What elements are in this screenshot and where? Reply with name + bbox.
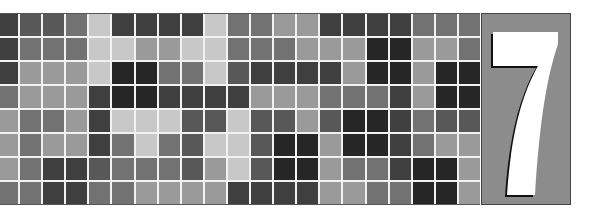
mosaic-cell [43, 134, 64, 156]
mosaic-cell [320, 14, 341, 36]
mosaic-cell [274, 158, 295, 180]
mosaic-cell [136, 38, 157, 60]
mosaic-cell [459, 110, 480, 132]
mosaic-cell [459, 14, 480, 36]
mosaic-cell [0, 182, 18, 204]
mosaic-cell [297, 62, 318, 84]
mosaic-cell [367, 62, 388, 84]
mosaic-cell [66, 182, 87, 204]
mosaic-cell [205, 86, 226, 108]
mosaic-cell [320, 158, 341, 180]
mosaic-cell [297, 134, 318, 156]
mosaic-cell [390, 182, 411, 204]
mosaic-cell [297, 38, 318, 60]
mosaic-cell [343, 110, 364, 132]
mosaic-cell [251, 86, 272, 108]
mosaic-cell [367, 182, 388, 204]
mosaic-cell [136, 182, 157, 204]
mosaic-cell [159, 134, 180, 156]
mosaic-cell [367, 38, 388, 60]
mosaic-cell [112, 110, 133, 132]
mosaic-cell [0, 38, 18, 60]
chapter-numeral-seven [482, 14, 572, 206]
mosaic-cell [112, 14, 133, 36]
mosaic-cell [159, 86, 180, 108]
mosaic-cell [367, 134, 388, 156]
mosaic-cell [274, 14, 295, 36]
mosaic-cell [20, 110, 41, 132]
mosaic-cell [89, 158, 110, 180]
mosaic-cell [0, 86, 18, 108]
mosaic-cell [367, 14, 388, 36]
mosaic-cell [274, 134, 295, 156]
mosaic-cell [182, 110, 203, 132]
mosaic-cell [320, 182, 341, 204]
mosaic-cell [66, 158, 87, 180]
mosaic-cell [343, 134, 364, 156]
mosaic-cell [320, 38, 341, 60]
mosaic-cell [0, 62, 18, 84]
mosaic-cell [43, 110, 64, 132]
mosaic-cell [89, 134, 110, 156]
mosaic-cell [112, 158, 133, 180]
mosaic-cell [251, 134, 272, 156]
mosaic-cell [205, 14, 226, 36]
mosaic-cell [159, 158, 180, 180]
mosaic-cell [43, 38, 64, 60]
mosaic-cell [43, 182, 64, 204]
mosaic-cell [274, 38, 295, 60]
mosaic-cell [112, 134, 133, 156]
mosaic-cell [182, 182, 203, 204]
mosaic-cell [0, 14, 18, 36]
mosaic-cell [66, 134, 87, 156]
mosaic-cell [413, 182, 434, 204]
mosaic-cell [413, 110, 434, 132]
mosaic-cell [413, 158, 434, 180]
mosaic-cell [136, 134, 157, 156]
mosaic-cell [297, 110, 318, 132]
mosaic-cell [390, 110, 411, 132]
mosaic-cell [436, 14, 457, 36]
mosaic-cell [343, 62, 364, 84]
mosaic-cell [390, 62, 411, 84]
mosaic-cell [112, 86, 133, 108]
mosaic-cell [20, 14, 41, 36]
mosaic-cell [436, 158, 457, 180]
mosaic-cell [66, 38, 87, 60]
mosaic-cell [297, 158, 318, 180]
mosaic-cell [459, 158, 480, 180]
mosaic-cell [413, 38, 434, 60]
mosaic-cell [89, 38, 110, 60]
mosaic-cell [390, 158, 411, 180]
mosaic-cell [136, 158, 157, 180]
mosaic-cell [66, 86, 87, 108]
mosaic-cell [89, 14, 110, 36]
mosaic-cell [436, 134, 457, 156]
mosaic-cell [436, 86, 457, 108]
mosaic-cell [112, 182, 133, 204]
mosaic-cell [0, 110, 18, 132]
mosaic-cell [228, 134, 249, 156]
mosaic-cell [297, 14, 318, 36]
mosaic-cell [274, 182, 295, 204]
mosaic-cell [251, 182, 272, 204]
mosaic-cell [182, 134, 203, 156]
mosaic-cell [205, 158, 226, 180]
mosaic-cell [20, 38, 41, 60]
mosaic-cell [459, 182, 480, 204]
mosaic-cell [413, 86, 434, 108]
mosaic-cell [182, 86, 203, 108]
mosaic-cell [228, 62, 249, 84]
mosaic-cell [251, 158, 272, 180]
mosaic-cell [205, 110, 226, 132]
mosaic-cell [251, 14, 272, 36]
mosaic-cell [251, 38, 272, 60]
mosaic-cell [43, 62, 64, 84]
mosaic-cell [182, 62, 203, 84]
mosaic-grid [0, 13, 480, 205]
mosaic-cell [228, 38, 249, 60]
mosaic-cell [320, 134, 341, 156]
mosaic-cell [343, 158, 364, 180]
mosaic-cell [320, 110, 341, 132]
mosaic-cell [459, 62, 480, 84]
